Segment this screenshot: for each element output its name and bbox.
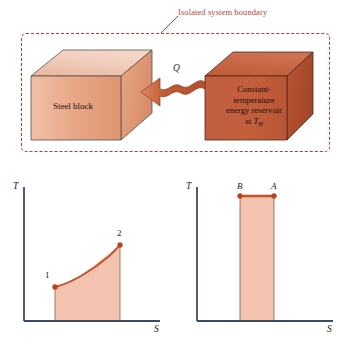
chart-right-ylabel: T xyxy=(186,181,191,191)
ts-diagrams: T S 1 2 T S B xyxy=(0,165,346,349)
chart-left-point-label-2: 2 xyxy=(117,228,122,238)
point-marker-1 xyxy=(52,284,57,289)
point-marker-A xyxy=(271,193,276,198)
area-under-isotherm xyxy=(240,196,274,321)
point-marker-2 xyxy=(117,242,122,247)
point-marker-B xyxy=(237,193,242,198)
chart-left-xlabel: S xyxy=(154,324,159,334)
chart-left-point-label-1: 1 xyxy=(45,270,50,280)
chart-reservoir-ts: T S B A xyxy=(173,165,346,349)
chart-right-xlabel: S xyxy=(327,324,332,334)
isolated-system-panel: Isolated system boundary xyxy=(0,0,346,165)
system-blocks-svg xyxy=(0,0,346,165)
chart-right-point-label-A: A xyxy=(271,181,277,191)
steel-block-3d xyxy=(31,50,152,140)
chart-right-point-label-B: B xyxy=(237,181,243,191)
thermodynamics-figure: Isolated system boundary xyxy=(0,0,346,349)
heat-symbol-label: Q xyxy=(173,63,180,73)
chart-steel-block-ts: T S 1 2 xyxy=(0,165,173,349)
reservoir-block-3d xyxy=(205,52,313,140)
chart-right-svg xyxy=(173,165,346,349)
chart-left-ylabel: T xyxy=(13,181,18,191)
chart-left-svg xyxy=(0,165,173,349)
